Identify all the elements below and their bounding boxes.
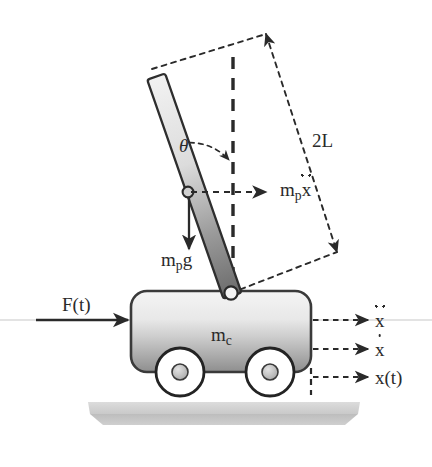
ground-slab-front	[90, 414, 358, 425]
theta-label: θ	[179, 136, 188, 155]
ground-slab	[88, 402, 360, 425]
wheel-right	[246, 348, 294, 396]
acceleration-label: x	[375, 311, 385, 330]
diagram-svg	[0, 0, 432, 467]
position-label: x(t)	[375, 368, 402, 387]
pendulum-weight-label: mpg	[161, 250, 192, 273]
figure-canvas: θ 2L mpx mpg mc F(t) x x x(t)	[0, 0, 432, 467]
wheel-right-hub	[262, 364, 278, 380]
wheel-left	[156, 348, 204, 396]
rod-cart-pivot-joint	[224, 286, 237, 299]
ground-slab-top	[88, 402, 360, 414]
pendulum-inertial-force-label: mpx	[280, 180, 311, 203]
wheel-left-hub	[172, 364, 188, 380]
velocity-label: x	[375, 340, 385, 359]
dimension-leader-top	[152, 34, 266, 69]
cart-mass-label: mc	[211, 325, 232, 348]
applied-force-label: F(t)	[62, 295, 91, 314]
dimension-leader-bottom	[231, 252, 337, 293]
length-label-2L: 2L	[312, 131, 333, 150]
